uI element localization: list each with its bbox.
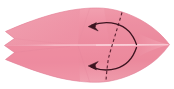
origami-diagram-svg xyxy=(0,0,174,89)
paper-body-group xyxy=(5,8,170,82)
origami-diagram-container: Origami fold step diagram Pink leaf / le… xyxy=(0,0,174,89)
